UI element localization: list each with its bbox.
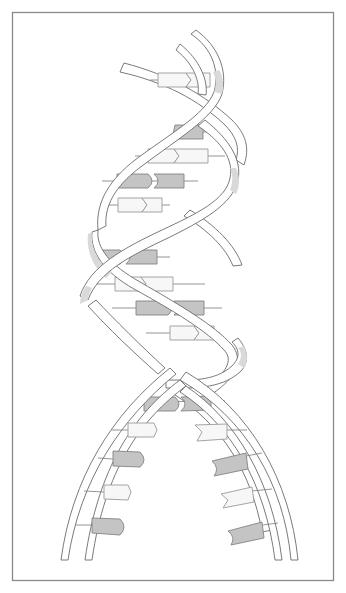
front-strand	[61, 30, 298, 560]
base-pair	[107, 198, 170, 212]
dna-double-helix-figure	[0, 0, 346, 593]
base-dark-cup	[228, 522, 264, 545]
figure-frame	[13, 13, 334, 581]
base-light-notch	[195, 424, 227, 441]
base-dark-round	[113, 451, 144, 467]
base-light-chevron	[104, 485, 131, 500]
base-light-chevron	[128, 423, 157, 437]
base-dark-cup	[212, 453, 248, 476]
base-dark-round	[92, 518, 124, 535]
base-light-notch	[221, 487, 254, 508]
